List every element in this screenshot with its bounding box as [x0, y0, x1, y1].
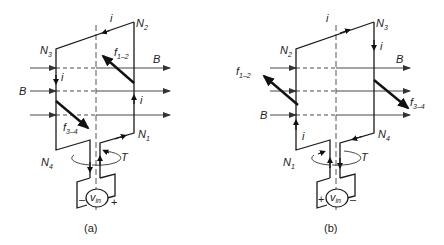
- field-label-left: B: [260, 109, 267, 121]
- node-n4-label: N4: [41, 156, 53, 170]
- force-1-2-label: f1–2: [236, 65, 251, 79]
- node-n2-label: N2: [280, 44, 292, 58]
- force-1-2-arrow: [264, 76, 298, 105]
- plus-sign: +: [318, 193, 324, 205]
- force-1-2-arrow: [103, 56, 134, 83]
- motor-loop-diagram: N2 N3 N1 N4 i i i f1–2 f3–4 B B T vin – …: [0, 0, 444, 245]
- node-n4-label: N4: [378, 128, 390, 142]
- minus-sign: –: [79, 193, 86, 205]
- node-n3-label: N3: [40, 44, 52, 58]
- minus-sign: –: [350, 193, 357, 205]
- field-label-right: B: [396, 53, 403, 65]
- magnetic-field-lines: [30, 68, 170, 115]
- force-3-4-arrow: [374, 80, 408, 108]
- node-n2-label: N2: [136, 17, 148, 31]
- current-label-right: i: [380, 40, 383, 52]
- node-n1-label: N1: [283, 156, 295, 170]
- force-1-2-label: f1–2: [114, 46, 129, 60]
- node-n1-label: N1: [138, 128, 150, 142]
- current-label-left: i: [61, 71, 64, 83]
- node-n3-label: N3: [376, 17, 388, 31]
- current-label-top: i: [110, 12, 113, 24]
- figure-b: N3 N2 N4 N1 i i i f1–2 f3–4 B B T vin + …: [236, 12, 425, 234]
- field-label-right: B: [153, 53, 160, 65]
- torque-label: T: [361, 151, 369, 163]
- plus-sign: +: [111, 196, 117, 208]
- force-3-4-arrow: [56, 101, 88, 128]
- caption-b: (b): [324, 222, 337, 234]
- field-label-left: B: [19, 85, 26, 97]
- figure-a: N2 N3 N1 N4 i i i f1–2 f3–4 B B T vin – …: [19, 12, 170, 234]
- current-label-right: i: [140, 94, 143, 106]
- caption-a: (a): [84, 222, 97, 234]
- torque-label: T: [121, 151, 129, 163]
- force-3-4-label: f3–4: [410, 96, 425, 110]
- force-3-4-label: f3–4: [63, 121, 78, 135]
- current-label-left: i: [302, 130, 305, 142]
- current-label-top: i: [326, 12, 329, 24]
